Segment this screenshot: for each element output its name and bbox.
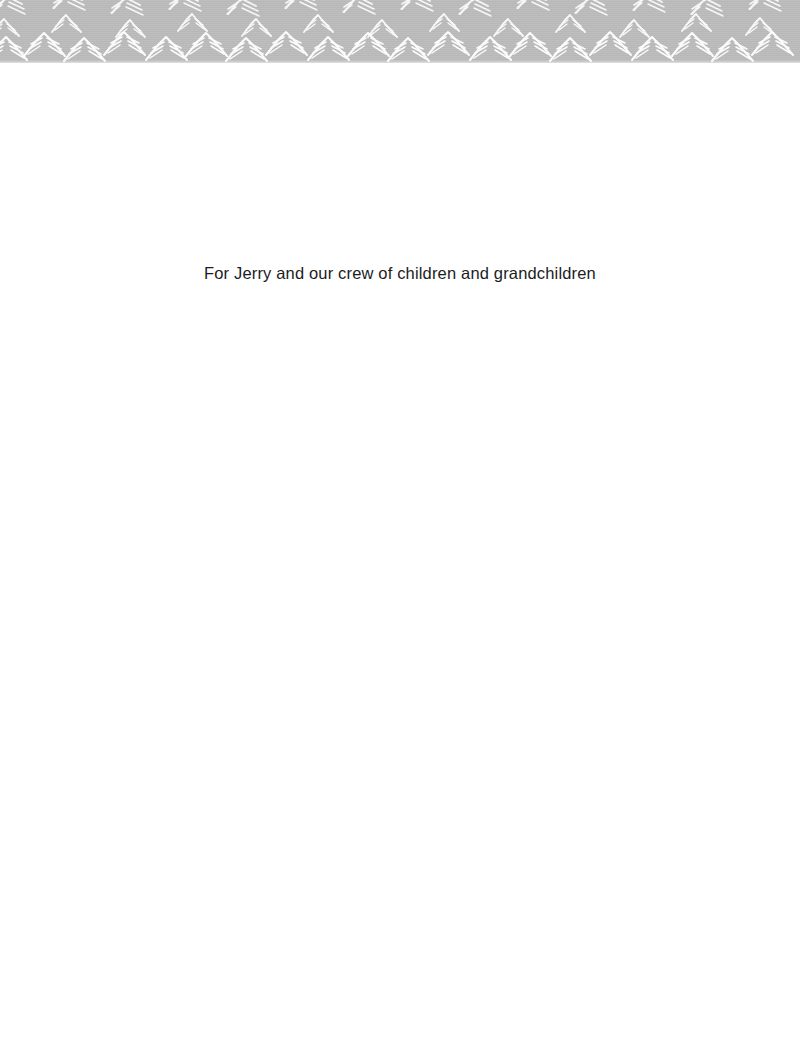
- page-body-blank-area: [0, 300, 800, 1061]
- header-ornament-band: [0, 0, 800, 63]
- dedication-text: For Jerry and our crew of children and g…: [204, 262, 596, 284]
- mountain-peaks-band-icon: [0, 0, 800, 63]
- dedication-page: For Jerry and our crew of children and g…: [0, 0, 800, 1061]
- dedication-block: For Jerry and our crew of children and g…: [0, 262, 800, 284]
